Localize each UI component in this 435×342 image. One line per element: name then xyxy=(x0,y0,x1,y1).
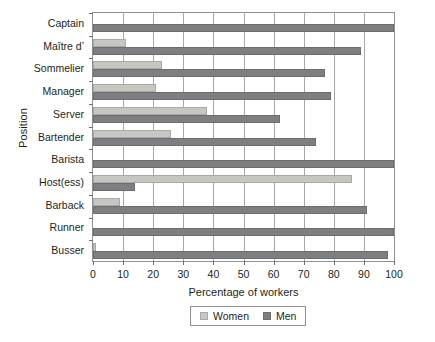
x-tick-mark xyxy=(304,261,305,265)
x-tick-mark xyxy=(274,261,275,265)
bar-men xyxy=(93,206,367,214)
y-tick-label: Maître d’ xyxy=(8,41,84,52)
bar-men xyxy=(93,251,388,259)
y-tick-label: Sommelier xyxy=(8,63,84,74)
y-tick-mark xyxy=(89,195,93,196)
x-tick-mark xyxy=(394,261,395,265)
x-tick-label: 80 xyxy=(328,268,340,280)
x-tick-label: 0 xyxy=(90,268,96,280)
x-tick-mark xyxy=(364,261,365,265)
y-tick-label: Host(ess) xyxy=(8,177,84,188)
x-tick-mark xyxy=(123,261,124,265)
bar-women xyxy=(93,84,156,92)
bar-chart-figure: Position CaptainMaître d’SommelierManage… xyxy=(0,0,435,342)
y-tick-mark xyxy=(89,13,93,14)
bar-men xyxy=(93,138,316,146)
bar-men xyxy=(93,115,280,123)
y-tick-label: Barback xyxy=(8,200,84,211)
bar-men xyxy=(93,69,325,77)
gridline xyxy=(364,13,365,261)
bar-men xyxy=(93,160,394,168)
x-tick-label: 70 xyxy=(298,268,310,280)
x-axis-tick-labels: 0102030405060708090100 xyxy=(92,268,395,282)
bar-women xyxy=(93,130,171,138)
y-tick-mark xyxy=(89,127,93,128)
y-tick-label: Runner xyxy=(8,222,84,233)
x-tick-label: 100 xyxy=(385,268,403,280)
x-tick-mark xyxy=(153,261,154,265)
bar-women xyxy=(93,198,120,206)
y-tick-mark xyxy=(89,81,93,82)
y-tick-mark xyxy=(89,240,93,241)
x-tick-label: 40 xyxy=(208,268,220,280)
x-tick-label: 10 xyxy=(117,268,129,280)
bar-women xyxy=(93,39,126,47)
y-tick-label: Bartender xyxy=(8,132,84,143)
x-tick-mark xyxy=(244,261,245,265)
y-tick-mark xyxy=(89,36,93,37)
plot-area xyxy=(92,12,395,262)
y-tick-label: Barista xyxy=(8,154,84,165)
y-tick-label: Server xyxy=(8,109,84,120)
bar-women xyxy=(93,61,162,69)
x-tick-mark xyxy=(183,261,184,265)
y-tick-mark xyxy=(89,172,93,173)
chart-legend: WomenMen xyxy=(190,306,306,326)
y-tick-mark xyxy=(89,149,93,150)
y-tick-label: Manager xyxy=(8,86,84,97)
bar-women xyxy=(93,107,207,115)
y-tick-mark xyxy=(89,58,93,59)
x-tick-label: 50 xyxy=(238,268,250,280)
bar-men xyxy=(93,183,135,191)
bar-men xyxy=(93,47,361,55)
x-tick-label: 60 xyxy=(268,268,280,280)
bar-women xyxy=(93,175,352,183)
legend-label: Men xyxy=(276,310,296,322)
y-axis-tick-labels: CaptainMaître d’SommelierManagerServerBa… xyxy=(12,12,88,262)
legend-entry-women: Women xyxy=(200,310,249,322)
y-tick-label: Busser xyxy=(8,245,84,256)
y-tick-mark xyxy=(89,218,93,219)
legend-entry-men: Men xyxy=(263,310,296,322)
legend-label: Women xyxy=(213,310,249,322)
bar-men xyxy=(93,228,394,236)
x-tick-label: 20 xyxy=(147,268,159,280)
x-tick-label: 90 xyxy=(358,268,370,280)
x-tick-mark xyxy=(334,261,335,265)
x-tick-mark xyxy=(93,261,94,265)
bar-men xyxy=(93,92,331,100)
x-tick-mark xyxy=(213,261,214,265)
bar-men xyxy=(93,24,394,32)
y-tick-mark xyxy=(89,104,93,105)
bar-women xyxy=(93,243,96,251)
legend-swatch-women-icon xyxy=(200,312,208,320)
x-tick-label: 30 xyxy=(177,268,189,280)
x-axis-title: Percentage of workers xyxy=(92,286,395,298)
y-tick-label: Captain xyxy=(8,18,84,29)
legend-swatch-men-icon xyxy=(263,312,271,320)
